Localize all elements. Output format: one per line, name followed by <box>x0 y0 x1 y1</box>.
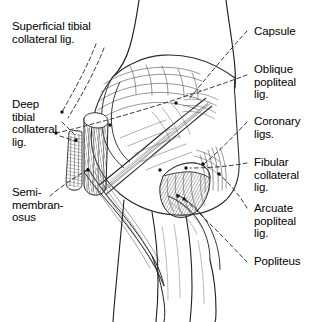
leader-deep-tibial-collateral <box>62 122 74 134</box>
anchor-semimembranosus <box>86 168 89 171</box>
tibia-shading <box>162 224 204 304</box>
label-popliteus: Popliteus <box>254 255 300 268</box>
leader-superficial-tibial-collateral <box>62 44 96 112</box>
anchor-fibular-collateral-2 <box>158 168 161 171</box>
deep-tibial-collateral-strip <box>66 131 82 191</box>
label-superficial-tibial-collateral-lig: Superficial tibial collateral lig. <box>12 20 91 45</box>
label-coronary-ligs: Coronary ligs. <box>254 115 301 140</box>
label-oblique-popliteal-lig: Oblique popliteal lig. <box>254 63 296 101</box>
label-semimembranosus: Semi- membran- osus <box>12 186 64 224</box>
anchor-popliteus <box>182 197 185 200</box>
label-fibular-collateral-lig: Fibular collateral lig. <box>254 156 299 194</box>
anatomy-figure: Superficial tibial collateral lig. Deep … <box>0 0 310 322</box>
tibial-collateral-ligament-band <box>84 113 108 195</box>
anchor-oblique-popliteal-2 <box>108 123 111 126</box>
anchor-fibular-collateral <box>184 166 187 169</box>
anchor-superficial-tibial-collateral <box>60 110 63 113</box>
label-capsule: Capsule <box>254 25 296 38</box>
anchor-capsule <box>174 101 177 104</box>
label-deep-tibial-collateral-lig: Deep tibial collateral lig. <box>12 98 57 148</box>
anchor-deep-tibial-collateral <box>74 138 77 141</box>
anchor-popliteus-2 <box>176 194 179 197</box>
label-arcuate-popliteal-lig: Arcuate popliteal lig. <box>254 202 296 240</box>
anchor-coronary <box>201 162 204 165</box>
anchor-arcuate-popliteal <box>217 172 220 175</box>
